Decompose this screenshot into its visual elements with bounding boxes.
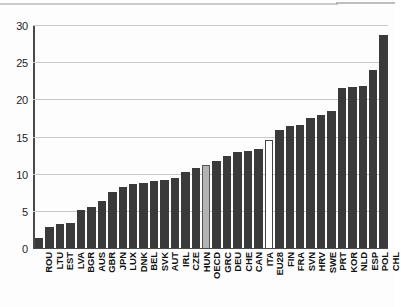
bar-slot — [296, 26, 304, 249]
bar-SWE — [317, 115, 325, 249]
y-tick-label-5: 5 — [22, 206, 28, 218]
bar-BGR — [77, 210, 85, 249]
y-tick-label-0: 0 — [22, 243, 28, 255]
bar-slot — [66, 26, 74, 249]
bar-GBR — [98, 201, 106, 249]
bar-NLD — [348, 87, 356, 249]
x-label-slot: AUS — [88, 252, 97, 304]
bar-DEU — [223, 156, 231, 249]
bar-slot — [369, 26, 377, 249]
y-tick-label-20: 20 — [16, 94, 28, 106]
bar-EU28 — [265, 140, 273, 249]
x-axis-labels: ROULTUESTLVABGRAUSGBRJPNLUXDNKBELSVKAUTI… — [35, 252, 390, 304]
x-label-slot: GRC — [214, 252, 223, 304]
bar-series — [35, 26, 388, 249]
x-label-slot: GBR — [98, 252, 107, 304]
bar-slot — [77, 26, 85, 249]
bar-slot — [379, 26, 387, 249]
bar-slot — [108, 26, 116, 249]
x-label-slot: KOR — [340, 252, 349, 304]
y-tick-label-30: 30 — [16, 20, 28, 32]
x-label-slot: SVK — [151, 252, 160, 304]
bar-GRC — [212, 161, 220, 249]
x-label-slot: LTU — [46, 252, 55, 304]
bar-slot — [212, 26, 220, 249]
x-label-slot: CZE — [182, 252, 191, 304]
x-label-slot: OECD — [203, 252, 212, 304]
bar-CZE — [181, 172, 189, 249]
x-label-slot: SWE — [319, 252, 328, 304]
bar-HRV — [306, 118, 314, 249]
bar-FIN — [275, 130, 283, 249]
y-tick-label-10: 10 — [16, 169, 28, 181]
y-tick-label-25: 25 — [16, 57, 28, 69]
x-label-slot: DNK — [130, 252, 139, 304]
bar-CAN — [244, 151, 252, 249]
plot-area: 051015202530 — [33, 26, 388, 249]
bar-AUS — [87, 207, 95, 249]
x-label-slot: SVN — [298, 252, 307, 304]
bar-LVA — [66, 223, 74, 249]
bar-slot — [317, 26, 325, 249]
bar-slot — [150, 26, 158, 249]
bar-slot — [181, 26, 189, 249]
x-label-slot: ROU — [35, 252, 44, 304]
bar-slot — [202, 26, 210, 249]
bar-KOR — [338, 88, 346, 249]
x-label-slot: POL — [371, 252, 380, 304]
bar-ESP — [359, 86, 367, 249]
bar-DNK — [129, 184, 137, 249]
bar-PRT — [327, 111, 335, 249]
bar-slot — [327, 26, 335, 249]
bar-POL — [369, 70, 377, 249]
bar-slot — [244, 26, 252, 249]
bar-LUX — [119, 187, 127, 249]
x-label-slot: DEU — [224, 252, 233, 304]
page-top-rule — [0, 3, 338, 5]
x-label-slot: HUN — [193, 252, 202, 304]
bar-slot — [348, 26, 356, 249]
x-label-slot: NLD — [350, 252, 359, 304]
bar-EST — [56, 224, 64, 249]
x-label-slot: AUT — [161, 252, 170, 304]
bar-slot — [129, 26, 137, 249]
bar-slot — [160, 26, 168, 249]
x-label-slot: ITA — [256, 252, 265, 304]
x-label-slot: FIN — [277, 252, 286, 304]
bar-slot — [98, 26, 106, 249]
bar-slot — [35, 26, 43, 249]
bar-ITA — [254, 149, 262, 249]
x-label-slot: CHL — [382, 252, 391, 304]
bar-SVK — [150, 181, 158, 249]
bar-SVN — [296, 125, 304, 249]
y-tick-label-15: 15 — [16, 132, 28, 144]
bar-slot — [338, 26, 346, 249]
bar-slot — [192, 26, 200, 249]
bar-OECD — [202, 165, 210, 249]
bar-HUN — [192, 168, 200, 249]
bar-slot — [306, 26, 314, 249]
x-label-slot: HRV — [308, 252, 317, 304]
x-label-slot: LVA — [67, 252, 76, 304]
bar-slot — [56, 26, 64, 249]
x-label-slot: CHE — [235, 252, 244, 304]
bar-CHL — [379, 35, 387, 249]
bar-IRL — [171, 178, 179, 249]
page-top-rule-right — [336, 2, 395, 4]
bar-LTU — [45, 227, 53, 249]
x-label-slot: IRL — [172, 252, 181, 304]
bar-slot — [275, 26, 283, 249]
bar-slot — [45, 26, 53, 249]
x-label-slot: LUX — [119, 252, 128, 304]
x-tick-label-CHL: CHL — [391, 252, 401, 271]
bar-slot — [223, 26, 231, 249]
x-label-slot: PRT — [329, 252, 338, 304]
bar-slot — [233, 26, 241, 249]
x-label-slot: CAN — [245, 252, 254, 304]
bar-CHE — [233, 152, 241, 249]
bar-slot — [359, 26, 367, 249]
bar-slot — [171, 26, 179, 249]
bar-slot — [139, 26, 147, 249]
bar-slot — [87, 26, 95, 249]
